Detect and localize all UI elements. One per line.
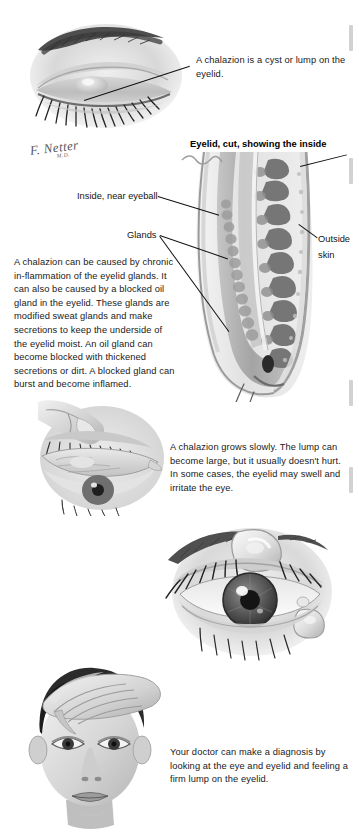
page-edge-tick (349, 380, 353, 406)
illustration-page: F. Netter M.D. A chalazion is a cyst or … (0, 0, 359, 833)
diagnosis-paragraph: Your doctor can make a diagnosis by look… (170, 746, 350, 787)
open-eye-with-lumps-illustration (160, 516, 340, 661)
page-edge-tick (349, 25, 353, 51)
label-inside-near-eyeball: Inside, near eyeball (77, 190, 158, 202)
label-glands: Glands (127, 229, 156, 241)
eyelid-cross-section-illustration (168, 152, 320, 402)
symptoms-paragraph: A chalazion grows slowly. The lump can b… (170, 441, 346, 495)
cross-section-heading: Eyelid, cut, showing the inside (190, 138, 326, 150)
page-edge-tick (349, 467, 353, 493)
everted-eyelid-illustration (38, 396, 166, 516)
physician-examining-eyelid-illustration (10, 640, 170, 833)
closed-eye-with-chalazion-illustration (14, 10, 194, 145)
chalazion-definition-callout: A chalazion is a cyst or lump on the eye… (196, 54, 348, 81)
causes-paragraph: A chalazion can be caused by chronic in-… (14, 256, 176, 392)
page-edge-tick (349, 158, 353, 184)
label-outside-skin-line2: skin (318, 249, 335, 261)
label-outside-skin-line1: Outside (318, 233, 350, 245)
